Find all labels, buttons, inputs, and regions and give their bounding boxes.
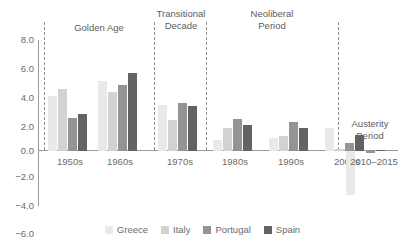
bar-group-1990s: 1990s <box>267 40 315 206</box>
bar-greece <box>158 105 167 151</box>
bar-greece <box>48 96 57 151</box>
legend-label-spain: Spain <box>276 224 300 235</box>
x-axis-tick-label: 1980s <box>211 156 259 167</box>
legend-item-spain: Spain <box>264 224 300 235</box>
legend-label-portugal: Portugal <box>215 224 250 235</box>
bar-group-2010-2015: 2010–2015 <box>344 40 392 206</box>
chart-legend: Greece Italy Portugal Spain <box>0 224 405 235</box>
bar-italy <box>279 136 288 151</box>
y-axis-tick-label: −2.0 <box>15 172 34 182</box>
legend-item-greece: Greece <box>105 224 148 235</box>
plot-area: 1950s 1960s 1970s <box>39 40 398 206</box>
bar-spain <box>243 125 252 151</box>
period-label-neoliberal-period: Neoliberal Period <box>208 8 336 32</box>
x-axis-tick-label: 1960s <box>96 156 144 167</box>
x-axis-tick-label: 1970s <box>156 156 204 167</box>
y-axis-tick-label: 6.0 <box>21 64 34 74</box>
bar-spain <box>376 150 385 151</box>
legend-label-italy: Italy <box>173 224 190 235</box>
bar-chart: 8.0 6.0 4.0 2.0 0.0 −2.0 −4.0 −6.0 Golde… <box>0 0 405 252</box>
bar-italy <box>58 89 67 151</box>
bar-group-1970s: 1970s <box>156 40 204 206</box>
bar-spain <box>128 73 137 151</box>
x-axis-tick-label: 1990s <box>267 156 315 167</box>
bar-italy <box>168 120 177 151</box>
legend-swatch-spain <box>264 226 272 234</box>
bar-greece <box>269 138 278 151</box>
bar-portugal <box>366 151 375 153</box>
bar-group-1960s: 1960s <box>96 40 144 206</box>
period-label-golden-age: Golden Age <box>45 22 153 34</box>
bar-group-1980s: 1980s <box>211 40 259 206</box>
y-axis-tick-label: −4.0 <box>15 201 34 211</box>
legend-label-greece: Greece <box>117 224 148 235</box>
bar-greece <box>98 81 107 151</box>
bar-italy <box>223 128 232 151</box>
x-axis-tick-label: 1950s <box>46 156 94 167</box>
bar-spain <box>299 128 308 151</box>
y-axis-tick-label: 0.0 <box>21 146 34 156</box>
bar-group-1950s: 1950s <box>46 40 94 206</box>
period-label-transitional-decade: Transitional Decade <box>152 8 210 32</box>
legend-swatch-portugal <box>203 226 211 234</box>
y-axis-tick-label: 8.0 <box>21 35 34 45</box>
y-axis-tick-label: 2.0 <box>21 122 34 132</box>
y-axis-tick-label: 4.0 <box>21 93 34 103</box>
bar-portugal <box>289 122 298 151</box>
bar-spain <box>188 106 197 151</box>
bar-portugal <box>118 85 127 151</box>
bar-spain <box>78 114 87 151</box>
bar-greece <box>213 140 222 151</box>
bar-portugal <box>68 118 77 151</box>
bar-portugal <box>178 103 187 151</box>
legend-swatch-greece <box>105 226 113 234</box>
y-axis-labels: 8.0 6.0 4.0 2.0 0.0 −2.0 −4.0 −6.0 <box>0 0 34 252</box>
bar-greece <box>325 128 334 151</box>
x-axis-tick-label: 2010–2015 <box>350 156 398 167</box>
bar-portugal <box>233 119 242 151</box>
bar-italy <box>108 92 117 151</box>
bar-italy <box>335 149 344 151</box>
legend-swatch-italy <box>161 226 169 234</box>
legend-item-portugal: Portugal <box>203 224 250 235</box>
legend-item-italy: Italy <box>161 224 190 235</box>
